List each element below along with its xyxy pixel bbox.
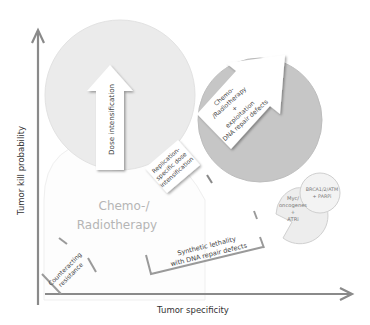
svg-text:Myc/: Myc/	[287, 195, 299, 202]
dose-intensification-label: Dose intensification	[107, 84, 116, 155]
y-axis-label: Tumor kill probability	[16, 126, 26, 216]
x-axis-label: Tumor specificity	[156, 305, 229, 315]
svg-text:BRCA1/2/ATM: BRCA1/2/ATM	[306, 187, 338, 192]
y-axis	[32, 30, 44, 305]
svg-text:+: +	[291, 209, 295, 215]
diagram-canvas: Dose intensification Chemo- /Radiotherap…	[0, 0, 370, 325]
replication-tick	[207, 175, 212, 183]
svg-text:ATRi: ATRi	[287, 216, 298, 222]
svg-text:oncogenes: oncogenes	[279, 202, 307, 209]
svg-text:Chemo-/: Chemo-/	[99, 199, 151, 213]
svg-text:Radiotherapy: Radiotherapy	[77, 218, 157, 232]
svg-text:+ PARPi: + PARPi	[313, 194, 332, 199]
